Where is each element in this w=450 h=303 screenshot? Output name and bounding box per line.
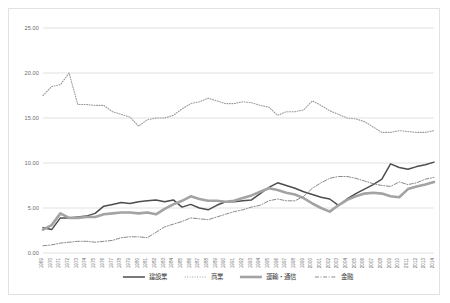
x-axis-tick-label: 2005 <box>352 258 357 269</box>
series-line-3 <box>43 177 434 246</box>
x-axis-tick-label: 1982 <box>152 258 157 269</box>
x-axis-tick-label: 2001 <box>317 258 322 269</box>
legend-label-2: 運輸・通信 <box>266 272 297 281</box>
x-axis-tick-label: 1991 <box>230 258 235 269</box>
chart-container: 0.005.0010.0015.0020.0025.00 19691970197… <box>8 8 440 295</box>
x-axis-tick-label: 1984 <box>169 258 174 269</box>
x-axis-tick-label: 2009 <box>387 258 392 269</box>
x-axis-tick-labels: 1969197019711972197319741975197619771978… <box>39 258 435 269</box>
x-axis-tick-label: 1990 <box>221 258 226 269</box>
line-chart: 0.005.0010.0015.0020.0025.00 19691970197… <box>9 9 441 296</box>
x-axis-tick-label: 2006 <box>360 258 365 269</box>
y-axis-tick-label: 0.00 <box>28 250 39 256</box>
x-axis-tick-label: 1983 <box>161 258 166 269</box>
x-axis-tick-label: 2008 <box>378 258 383 269</box>
x-axis-tick-label: 1975 <box>91 258 96 269</box>
y-axis-tick-labels: 0.005.0010.0015.0020.0025.00 <box>25 25 40 256</box>
x-axis-tick-label: 1977 <box>109 258 114 269</box>
legend-label-1: 商業 <box>211 272 224 281</box>
x-axis-tick-label: 1987 <box>195 258 200 269</box>
x-axis-tick-label: 2012 <box>413 258 418 269</box>
x-axis-tick-label: 2004 <box>343 258 348 269</box>
x-axis-tick-label: 1981 <box>143 258 148 269</box>
legend-label-3: 金融 <box>341 272 354 281</box>
x-axis-tick-label: 1995 <box>265 258 270 269</box>
x-axis-tick-label: 1992 <box>239 258 244 269</box>
x-axis-tick-label: 1998 <box>291 258 296 269</box>
x-axis-tick-label: 1980 <box>135 258 140 269</box>
x-axis-tick-label: 1978 <box>117 258 122 269</box>
x-axis-tick-label: 1985 <box>178 258 183 269</box>
data-series-group <box>43 73 434 246</box>
x-axis-tick-label: 2013 <box>421 258 426 269</box>
x-axis-tick-label: 2014 <box>430 258 435 269</box>
x-axis-tick-label: 1971 <box>56 258 61 269</box>
series-line-1 <box>43 73 434 132</box>
y-axis-tick-label: 20.00 <box>25 70 40 76</box>
x-axis-tick-label: 1973 <box>74 258 79 269</box>
x-axis-tick-label: 2002 <box>326 258 331 269</box>
x-axis-tick-label: 2010 <box>395 258 400 269</box>
chart-legend: 建設業商業運輸・通信金融 <box>123 272 354 281</box>
x-axis-tick-label: 1972 <box>65 258 70 269</box>
y-axis-tick-label: 5.00 <box>28 205 39 211</box>
x-axis-tick-label: 1989 <box>213 258 218 269</box>
y-axis-tick-label: 25.00 <box>25 25 40 31</box>
legend-label-0: 建設業 <box>149 272 168 281</box>
x-axis-tick-label: 1969 <box>39 258 44 269</box>
x-axis-tick-label: 1997 <box>282 258 287 269</box>
y-axis-tick-label: 15.00 <box>25 115 40 121</box>
x-axis-tick-label: 2007 <box>369 258 374 269</box>
x-axis-tick-label: 2003 <box>334 258 339 269</box>
x-axis-tick-label: 1999 <box>300 258 305 269</box>
x-axis-tick-label: 1996 <box>274 258 279 269</box>
series-line-2 <box>43 182 434 230</box>
x-axis-tick-label: 2011 <box>404 258 409 268</box>
series-line-0 <box>43 162 434 230</box>
x-axis-tick-label: 2000 <box>308 258 313 269</box>
x-axis-tick-label: 1974 <box>82 258 87 269</box>
x-axis-tick-label: 1986 <box>187 258 192 269</box>
x-axis-tick-label: 1988 <box>204 258 209 269</box>
gridlines <box>43 28 434 253</box>
x-axis-tick-label: 1970 <box>48 258 53 269</box>
y-axis-tick-label: 10.00 <box>25 160 40 166</box>
x-axis-tick-label: 1993 <box>248 258 253 269</box>
x-axis-tick-label: 1976 <box>100 258 105 269</box>
x-axis-tick-label: 1979 <box>126 258 131 269</box>
x-axis-tick-label: 1994 <box>256 258 261 269</box>
